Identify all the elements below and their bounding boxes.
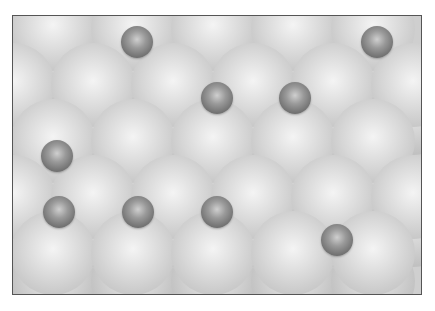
adsorbed-atom — [361, 26, 393, 58]
adsorbed-atom — [43, 196, 75, 228]
substrate-atom-upper — [251, 211, 335, 295]
adsorbed-atom — [121, 26, 153, 58]
adsorbed-atom — [201, 82, 233, 114]
adsorbed-atom — [321, 224, 353, 256]
adsorbed-atom — [41, 140, 73, 172]
lattice-figure-frame — [12, 15, 422, 295]
adsorbed-atom — [201, 196, 233, 228]
adsorbed-atom — [122, 196, 154, 228]
adsorbed-atom — [279, 82, 311, 114]
